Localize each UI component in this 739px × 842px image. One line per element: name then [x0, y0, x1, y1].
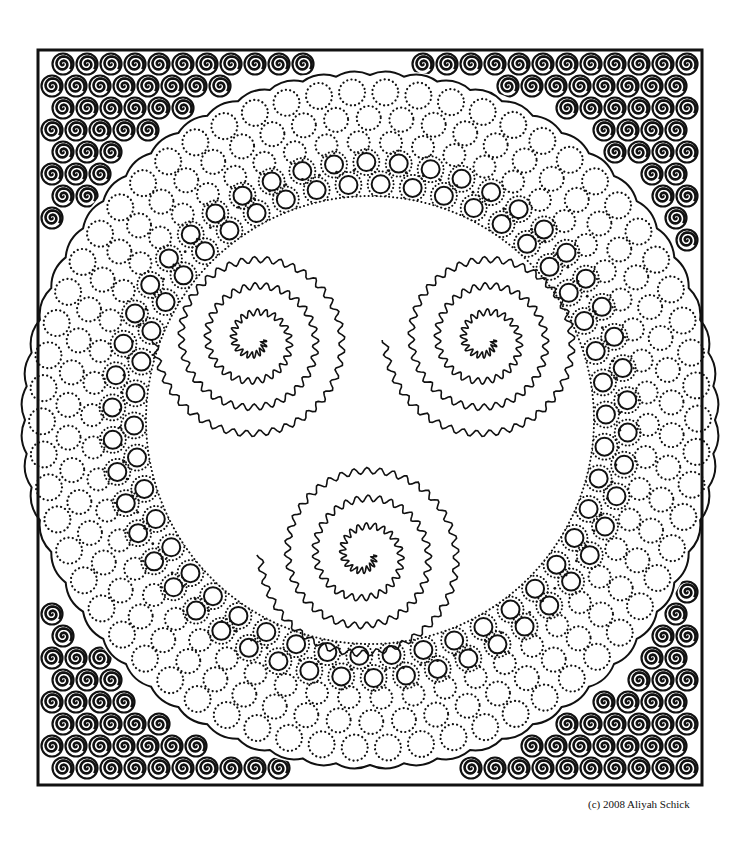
copyright-caption: (c) 2008 Aliyah Schick — [588, 798, 690, 810]
mandala-artwork — [0, 0, 739, 842]
circle-ring — [19, 69, 721, 771]
